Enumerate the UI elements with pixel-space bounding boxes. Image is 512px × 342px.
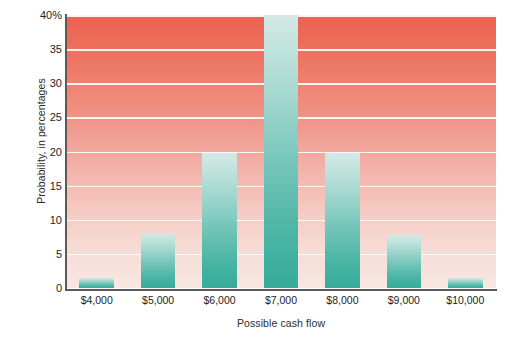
bar [325, 153, 360, 288]
x-axis-line [65, 289, 497, 291]
x-tick-label: $6,000 [204, 294, 236, 306]
bar [387, 235, 422, 288]
bar-chart-figure: Probability, in percentages 051015202530… [0, 0, 512, 342]
x-tick-label: $4,000 [81, 294, 113, 306]
bar [79, 278, 114, 288]
bar [141, 233, 176, 288]
x-tick-label: $9,000 [388, 294, 420, 306]
x-tick-label: $7,000 [265, 294, 297, 306]
bar [448, 278, 483, 288]
y-axis-line [65, 14, 67, 290]
y-tick-label: 35 [4, 43, 62, 55]
y-tick-label: 10 [4, 214, 62, 226]
x-tick-label: $8,000 [326, 294, 358, 306]
y-axis-tick-labels: 0510152025303540% [0, 0, 62, 342]
x-tick-label: $10,000 [446, 294, 484, 306]
y-tick-label: 20 [4, 146, 62, 158]
bar [202, 153, 237, 288]
y-tick-label: 0 [4, 282, 62, 294]
y-tick-label: 25 [4, 111, 62, 123]
y-tick-label: 15 [4, 180, 62, 192]
y-tick-label: 5 [4, 248, 62, 260]
x-tick-label: $5,000 [142, 294, 174, 306]
plot-area [66, 15, 496, 288]
x-axis-title: Possible cash flow [66, 317, 496, 329]
y-tick-label: 40% [4, 9, 62, 21]
y-tick-label: 30 [4, 77, 62, 89]
x-axis-tick-labels: $4,000$5,000$6,000$7,000$8,000$9,000$10,… [66, 294, 496, 314]
bar [264, 15, 299, 288]
